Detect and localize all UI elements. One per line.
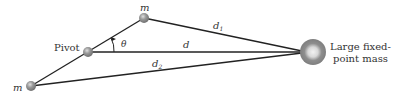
large-fixed-mass [300, 39, 326, 65]
label-d: d [183, 39, 189, 50]
pivot-ball [83, 47, 93, 57]
label-d1: d1 [213, 20, 223, 32]
line-d1 [144, 18, 302, 51]
label-d2: d2 [152, 58, 162, 70]
label-large-mass-line2: point mass [333, 53, 388, 64]
mass-top-ball [139, 13, 149, 23]
label-large-mass-line1: Large fixed- [330, 41, 391, 52]
label-theta: θ [121, 39, 127, 49]
line-d2 [31, 53, 302, 86]
torsion-balance-diagram: m m Pivot θ d d1 d2 Large fixed- point m… [0, 0, 399, 97]
label-pivot: Pivot [54, 42, 80, 53]
label-mass-top: m [140, 2, 149, 13]
mass-bottom-ball [26, 81, 36, 91]
label-mass-bottom: m [13, 82, 22, 93]
